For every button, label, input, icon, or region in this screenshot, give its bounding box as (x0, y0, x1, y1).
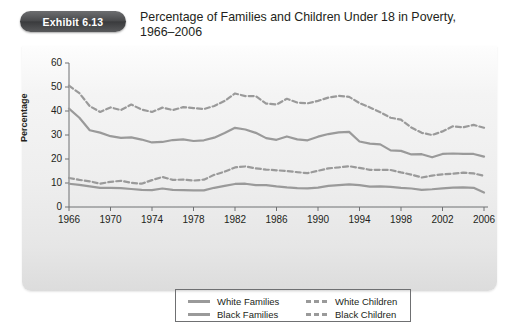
legend-label: Black Children (335, 309, 396, 320)
figure-title-line1: Percentage of Families and Children Unde… (140, 10, 510, 25)
line-chart-svg (22, 46, 497, 291)
legend-item: Black Families (188, 309, 306, 320)
legend-swatch-dashed (306, 313, 328, 316)
figure-header: Exhibit 6.13 Percentage of Families and … (0, 0, 519, 48)
legend-item: White Children (306, 296, 397, 307)
legend-label: Black Families (217, 309, 278, 320)
legend-row-1: White FamiliesWhite Children (188, 295, 397, 308)
legend-item: Black Children (306, 309, 396, 320)
exhibit-badge: Exhibit 6.13 (20, 11, 126, 32)
series-line-black-children (69, 86, 484, 135)
legend-label: White Children (335, 296, 397, 307)
figure-title: Percentage of Families and Children Unde… (140, 10, 510, 39)
series-line-white-families (69, 184, 484, 193)
chart-panel: Percentage 0102030405060 196619701974197… (22, 46, 497, 291)
chart-legend: White FamiliesWhite Children Black Famil… (175, 289, 411, 322)
series-line-white-children (69, 166, 484, 184)
legend-swatch-dashed (306, 300, 328, 303)
legend-label: White Families (217, 296, 279, 307)
legend-swatch-solid (188, 300, 210, 303)
figure-title-line2: 1966–2006 (140, 25, 510, 40)
plot-area: Percentage 0102030405060 196619701974197… (22, 46, 497, 291)
legend-swatch-solid (188, 313, 210, 316)
legend-item: White Families (188, 296, 306, 307)
legend-row-2: Black FamiliesBlack Children (188, 308, 396, 321)
